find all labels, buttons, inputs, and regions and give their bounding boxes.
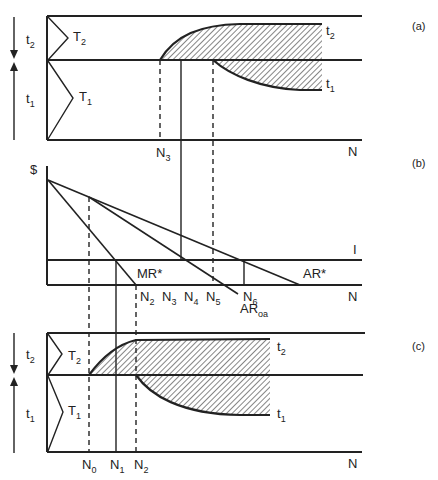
panel-a: t2 t1 T2 T1 t2 t1 N3 N (a): [10, 16, 425, 283]
panel-c: t2 t1 T2 T1 t2 t1 N0 N1 N2 N (c): [10, 333, 425, 475]
hatched-region-a: [160, 24, 322, 90]
panel-tag-a: (a): [412, 20, 425, 32]
arrow-down-icon: [10, 17, 18, 59]
tick-N3-b: N3: [162, 289, 176, 307]
label-I: I: [353, 242, 357, 257]
arrow-down-icon: [10, 333, 18, 374]
arrow-up-icon: [10, 62, 18, 140]
label-curve-t1-a: t1: [326, 76, 335, 94]
tick-N1-c: N1: [110, 457, 124, 475]
label-curve-t2-c: t2: [277, 339, 286, 357]
tick-N5-b: N5: [206, 289, 220, 307]
T2-bracket-a: [48, 17, 68, 60]
label-t2-c: t2: [26, 347, 35, 365]
tick-N2-c: N2: [134, 457, 148, 475]
arrow-up-icon: [10, 377, 18, 453]
label-N3-a: N3: [156, 145, 170, 163]
T2-bracket-c: [48, 334, 62, 375]
MR-star-line: [48, 180, 136, 285]
panel-tag-c: (c): [412, 340, 425, 352]
label-axis-N-b: N: [348, 289, 357, 304]
label-T2-c: T2: [68, 348, 81, 366]
economic-diagram: t2 t1 T2 T1 t2 t1 N3 N (a) $ I MR* AR* A…: [0, 0, 438, 480]
panel-tag-b: (b): [412, 157, 425, 169]
label-MR-star: MR*: [137, 266, 162, 281]
label-axis-N-a: N: [348, 144, 357, 159]
AR-star-line: [48, 180, 300, 285]
label-t1-c: t1: [26, 406, 35, 424]
label-curve-t2-a: t2: [326, 23, 335, 41]
label-t2-a: t2: [26, 32, 35, 50]
label-T1-a: T1: [79, 89, 92, 107]
label-curve-t1-c: t1: [277, 406, 286, 424]
label-t1-a: t1: [26, 91, 35, 109]
tick-N2-b: N2: [140, 289, 154, 307]
label-T1-c: T1: [68, 403, 81, 421]
T1-bracket-c: [48, 376, 63, 451]
tick-N0-c: N0: [82, 457, 96, 475]
label-T2-a: T2: [73, 29, 86, 47]
label-AR-star: AR*: [303, 266, 326, 281]
T1-bracket-a: [48, 61, 73, 139]
label-axis-N-c: N: [348, 456, 357, 471]
tick-N4-b: N4: [184, 289, 198, 307]
label-dollar: $: [30, 162, 38, 177]
AR-oa-line: [89, 197, 238, 294]
